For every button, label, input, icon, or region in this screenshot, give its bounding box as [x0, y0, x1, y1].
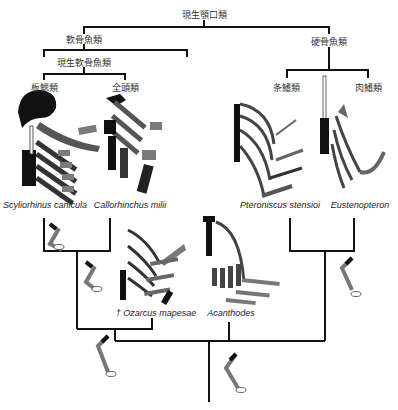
taxon-label-acanthodes: Acanthodes [207, 308, 255, 318]
taxon-label-pteroniscus: Pteroniscus stensioi [240, 200, 320, 210]
arch-icon-chondrichthyes [86, 262, 102, 292]
scyliorhinus-skeleton [18, 90, 100, 205]
arch-icon-root [226, 354, 246, 393]
acanthodes-skeleton [203, 216, 280, 305]
clade-label-chondrichthyes: 軟骨魚類 [66, 33, 102, 46]
taxon-label-ozarcus: † Ozarcus mapesae [116, 308, 197, 318]
clade-label-holocephali: 全頭類 [112, 81, 139, 94]
clade-label-gnathostomes: 現生顎口類 [182, 8, 227, 21]
pteroniscus-skeleton [234, 104, 303, 196]
ozarcus-skeleton [120, 230, 186, 305]
phylogeny-diagram: 現生顎口類 軟骨魚類 硬骨魚類 現生軟骨魚類 板鰓類 全頭類 条鰭類 肉鰭類 S… [0, 0, 398, 410]
arch-icon-scyliorhinus [50, 224, 64, 250]
taxon-label-eusthenopteron: Eustenopteron [331, 200, 390, 210]
clade-label-crown-chondrichthyes: 現生軟骨魚類 [57, 56, 111, 69]
clade-label-osteichthyes: 硬骨魚類 [311, 35, 347, 48]
arch-icon-left-node [98, 336, 116, 377]
callorhinchus-skeleton [104, 94, 162, 194]
taxon-label-scyliorhinus: Scyliorhinus canicula [3, 200, 87, 210]
clade-label-sarcopterygii: 肉鰭類 [355, 81, 382, 94]
taxon-label-callorhinchus: Callorhinchus milii [94, 200, 167, 210]
clade-label-actinopterygii: 条鰭類 [273, 81, 300, 94]
clade-label-elasmobranchii: 板鰓類 [31, 81, 58, 94]
arch-icon-osteichthyes [342, 258, 361, 297]
